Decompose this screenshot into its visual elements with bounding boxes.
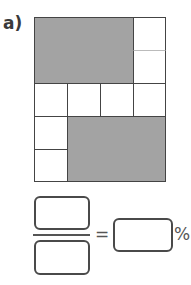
grid-cell — [67, 83, 101, 117]
numerator-input[interactable] — [34, 196, 90, 230]
grid-cell — [133, 17, 166, 51]
percent-sign: % — [174, 224, 190, 244]
fraction-bar — [33, 234, 90, 236]
grid-cell — [34, 83, 68, 117]
shaded-region-top — [34, 17, 134, 84]
fraction-grid — [34, 17, 166, 182]
grid-cell — [100, 83, 134, 117]
grid-cell — [34, 149, 68, 182]
percent-input[interactable] — [113, 218, 173, 252]
grid-cell — [133, 83, 166, 117]
shaded-region-bottom — [67, 116, 166, 182]
grid-cell — [133, 50, 166, 84]
grid-cell — [34, 116, 68, 150]
denominator-input[interactable] — [34, 240, 90, 275]
question-label: a) — [3, 13, 22, 33]
equals-sign: = — [95, 224, 109, 244]
